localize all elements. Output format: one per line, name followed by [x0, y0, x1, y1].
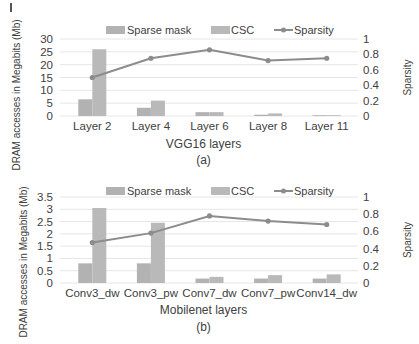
y2-tick-label: 0.6 [363, 64, 379, 76]
bar-csc [210, 277, 224, 283]
y2-tick-label: 0.4 [363, 79, 380, 91]
y2-tick-label: 0.8 [363, 208, 379, 220]
x-tick-label: Layer 2 [73, 120, 111, 132]
legend-label-csc: CSC [231, 185, 254, 197]
sparsity-marker [324, 222, 329, 227]
bar-sparse-mask [196, 112, 210, 116]
legend-swatch-sparse-mask [106, 187, 125, 195]
bar-csc [268, 275, 282, 283]
bar-csc [151, 101, 165, 116]
sparsity-line [92, 50, 326, 78]
sparsity-marker [207, 213, 212, 218]
y2-tick-label: 0.6 [363, 225, 379, 237]
legend-label-sparse-mask: Sparse mask [127, 185, 192, 197]
y2-tick-label: 0.8 [363, 48, 379, 60]
y-axis-right-ticks: 00.20.40.60.81 [363, 33, 380, 122]
sparsity-marker [148, 56, 153, 61]
y2-axis-title: Sparsity [402, 59, 413, 95]
chart-subtitle: (b) [196, 320, 211, 334]
bar-csc [327, 115, 341, 116]
bar-sparse-mask [254, 115, 268, 116]
x-axis-title: Mobilenet layers [160, 303, 247, 317]
bar-sparse-mask [196, 279, 210, 283]
y-tick-label: 5 [47, 97, 53, 109]
sparsity-marker [148, 231, 153, 236]
chart-b: 00.511.522.533.500.20.40.60.81SparsityDR… [18, 185, 413, 338]
chart-subtitle: (a) [196, 153, 211, 167]
sparsity-marker [266, 218, 271, 223]
x-tick-label: Layer 8 [249, 120, 287, 132]
bar-csc [92, 208, 106, 283]
y-axis-left-ticks: 00.511.522.533.5 [37, 191, 53, 289]
y2-tick-label: 0.2 [363, 260, 379, 272]
legend-swatch-csc [211, 187, 230, 195]
y-tick-label: 1.5 [37, 240, 53, 252]
y-axis-title: DRAM accesses in Megabits (Mb) [11, 19, 22, 170]
x-tick-label: Layer 6 [190, 120, 228, 132]
x-tick-label: Conv7_pw [241, 287, 296, 299]
sparsity-line [92, 216, 326, 243]
y-tick-label: 0 [47, 277, 53, 289]
chart-a: 05101520253000.20.40.60.81SparsityDRAM a… [11, 19, 413, 170]
y-tick-label: 3.5 [37, 191, 53, 203]
y-tick-label: 1 [47, 252, 53, 264]
bar-csc [92, 49, 106, 116]
x-tick-label: Conv14_dw [296, 287, 357, 299]
bar-csc [210, 112, 224, 116]
y2-tick-label: 0 [363, 110, 369, 122]
x-tick-label: Layer 11 [305, 120, 349, 132]
y-axis-right-ticks: 00.20.40.60.81 [363, 191, 380, 289]
bar-csc [268, 113, 282, 116]
bar-sparse-mask [78, 99, 92, 116]
bars [78, 208, 340, 283]
bar-sparse-mask [137, 263, 151, 283]
sparsity-marker [90, 240, 95, 245]
y2-tick-label: 1 [363, 33, 369, 45]
x-tick-label: Conv3_pw [124, 287, 179, 299]
y2-axis-title: Sparsity [402, 222, 413, 258]
y2-tick-label: 1 [363, 191, 369, 203]
y2-tick-label: 0.2 [363, 95, 379, 107]
legend-swatch-sparse-mask [106, 26, 125, 34]
bar-sparse-mask [254, 279, 268, 283]
legend: Sparse maskCSCSparsity [106, 24, 334, 36]
legend-label-sparse-mask: Sparse mask [127, 24, 192, 36]
legend-label-csc: CSC [231, 24, 254, 36]
bar-sparse-mask [137, 108, 151, 116]
legend-label-sparsity: Sparsity [294, 24, 334, 36]
charts-canvas: 05101520253000.20.40.60.81SparsityDRAM a… [0, 0, 419, 344]
bar-sparse-mask [78, 263, 92, 283]
bar-csc [327, 274, 341, 283]
y2-tick-label: 0 [363, 277, 369, 289]
legend: Sparse maskCSCSparsity [106, 185, 334, 197]
y-tick-label: 3 [47, 203, 53, 215]
y-axis-left-ticks: 051015202530 [40, 33, 53, 122]
x-tick-label: Conv7_dw [182, 287, 237, 299]
sparsity-marker [90, 75, 95, 80]
legend-swatch-csc [211, 26, 230, 34]
y-tick-label: 2 [47, 228, 53, 240]
y-tick-label: 10 [40, 84, 53, 96]
y-axis-title: DRAM accesses in Megabits (Mb) [18, 186, 29, 337]
x-tick-label: Layer 4 [132, 120, 171, 132]
y-tick-label: 30 [40, 33, 53, 45]
y-tick-label: 20 [40, 59, 53, 71]
x-axis-title: VGG16 layers [166, 137, 241, 151]
legend-label-sparsity: Sparsity [294, 185, 334, 197]
y-tick-label: 0 [47, 110, 53, 122]
x-tick-label: Conv3_dw [65, 287, 120, 299]
y2-tick-label: 0.4 [363, 243, 380, 255]
bar-sparse-mask [313, 115, 327, 116]
sparsity-marker [324, 56, 329, 61]
sparsity-marker [207, 47, 212, 52]
y-tick-label: 2.5 [37, 216, 53, 228]
y-tick-label: 15 [40, 72, 53, 84]
y-tick-label: 25 [40, 46, 53, 58]
y-tick-label: 0.5 [37, 265, 53, 277]
bar-sparse-mask [313, 279, 327, 283]
sparsity-marker [266, 58, 271, 63]
